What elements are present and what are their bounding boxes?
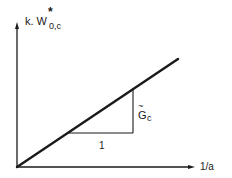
diagram-canvas: k. W * 0,c 1/a 1 ~ G c — [0, 0, 232, 178]
x-axis-label: 1/a — [200, 161, 214, 172]
y-axis-label-sup: * — [48, 5, 53, 19]
y-axis-arrow-icon — [15, 22, 19, 29]
linear-relation-line — [17, 59, 178, 167]
x-axis-arrow-icon — [188, 165, 195, 169]
slope-rise-label-sub: c — [147, 113, 152, 123]
slope-rise-label: G — [138, 109, 147, 121]
y-axis-label-sub: 0,c — [49, 21, 62, 31]
y-axis-label: k. W — [25, 15, 48, 27]
slope-run-label: 1 — [99, 140, 105, 151]
